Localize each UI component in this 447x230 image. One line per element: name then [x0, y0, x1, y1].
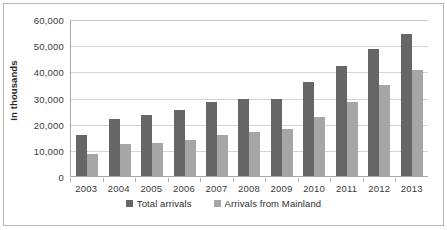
- x-axis-tick-label: 2004: [108, 183, 130, 194]
- x-axis-tick-label: 2010: [303, 183, 325, 194]
- x-axis-tick-2006: 2006: [168, 178, 201, 196]
- x-axis-tick-2011: 2011: [330, 178, 363, 196]
- x-axis-tick-2005: 2005: [135, 178, 168, 196]
- x-axis-tick-mark: [135, 178, 136, 182]
- x-axis-tick-mark: [298, 178, 299, 182]
- bar-total-arrivals-2005[interactable]: [141, 115, 152, 176]
- bar-total-arrivals-2013[interactable]: [401, 34, 412, 176]
- bar-arrivals-from-mainland-2007[interactable]: [217, 135, 228, 176]
- x-axis-tick-2009: 2009: [265, 178, 298, 196]
- x-axis-tick-label: 2013: [401, 183, 423, 194]
- x-axis-tick-mark: [395, 178, 396, 182]
- y-axis-tick-label: 20,000: [34, 119, 64, 130]
- legend-swatch-icon: [126, 200, 133, 207]
- bar-group-2013: [396, 20, 428, 176]
- x-axis-tick-mark: [70, 178, 71, 182]
- bar-group-2005: [136, 20, 168, 176]
- y-axis-tick-label: 40,000: [34, 67, 64, 78]
- bar-total-arrivals-2006[interactable]: [174, 110, 185, 176]
- bar-arrivals-from-mainland-2008[interactable]: [249, 132, 260, 176]
- bar-arrivals-from-mainland-2012[interactable]: [379, 85, 390, 176]
- y-axis-tick-label: 50,000: [34, 41, 64, 52]
- bar-group-2003: [71, 20, 103, 176]
- bar-series-layer: [71, 20, 428, 176]
- bar-total-arrivals-2011[interactable]: [336, 66, 347, 176]
- bar-total-arrivals-2010[interactable]: [303, 82, 314, 176]
- x-axis-tick-mark: [233, 178, 234, 182]
- x-axis-tick-2003: 2003: [70, 178, 103, 196]
- bar-arrivals-from-mainland-2009[interactable]: [282, 129, 293, 176]
- bar-group-2009: [266, 20, 298, 176]
- x-axis-tick-mark: [265, 178, 266, 182]
- x-axis-tick-2004: 2004: [103, 178, 136, 196]
- bar-arrivals-from-mainland-2003[interactable]: [87, 154, 98, 176]
- bar-arrivals-from-mainland-2011[interactable]: [347, 102, 358, 176]
- bar-group-2010: [298, 20, 330, 176]
- bar-chart-figure: In thousands 010,00020,00030,00040,00050…: [0, 0, 447, 230]
- x-axis-tick-2007: 2007: [200, 178, 233, 196]
- legend-item-total[interactable]: Total arrivals: [126, 198, 192, 209]
- x-axis-tick-label: 2008: [238, 183, 260, 194]
- x-axis-tick-mark: [330, 178, 331, 182]
- x-axis-tick-2013: 2013: [395, 178, 428, 196]
- bar-arrivals-from-mainland-2006[interactable]: [185, 140, 196, 176]
- legend-item-mainland[interactable]: Arrivals from Mainland: [214, 198, 322, 209]
- plot-area: [70, 20, 428, 177]
- x-axis-tick-label: 2007: [205, 183, 227, 194]
- x-axis-tick-mark: [168, 178, 169, 182]
- y-axis-title-text: In thousands: [8, 60, 19, 120]
- y-axis-tick-label: 30,000: [34, 93, 64, 104]
- bar-total-arrivals-2012[interactable]: [368, 49, 379, 176]
- bar-group-2011: [331, 20, 363, 176]
- x-axis-tick-2012: 2012: [363, 178, 396, 196]
- bar-group-2007: [201, 20, 233, 176]
- bar-group-2004: [103, 20, 135, 176]
- x-axis-tick-label: 2003: [75, 183, 97, 194]
- bar-total-arrivals-2003[interactable]: [76, 135, 87, 176]
- chart-legend: Total arrivalsArrivals from Mainland: [0, 198, 447, 209]
- legend-swatch-icon: [214, 200, 221, 207]
- bar-arrivals-from-mainland-2004[interactable]: [120, 144, 131, 176]
- x-axis-tick-mark: [103, 178, 104, 182]
- bar-group-2006: [168, 20, 200, 176]
- bar-total-arrivals-2004[interactable]: [109, 119, 120, 176]
- x-axis-tick-mark: [363, 178, 364, 182]
- x-axis-tick-label: 2012: [368, 183, 390, 194]
- bar-arrivals-from-mainland-2013[interactable]: [412, 70, 423, 176]
- y-axis-tick-labels: 010,00020,00030,00040,00050,00060,000: [24, 0, 68, 190]
- x-axis-tick-label: 2011: [336, 183, 357, 194]
- bar-group-2008: [233, 20, 265, 176]
- x-axis-tick-2010: 2010: [298, 178, 331, 196]
- y-axis-tick-label: 0: [59, 172, 64, 183]
- x-axis-tick-label: 2005: [140, 183, 162, 194]
- x-axis-tick-2008: 2008: [233, 178, 266, 196]
- legend-item-label: Arrivals from Mainland: [225, 198, 322, 209]
- legend-item-label: Total arrivals: [137, 198, 192, 209]
- y-axis-tick-label: 10,000: [34, 145, 64, 156]
- bar-total-arrivals-2007[interactable]: [206, 102, 217, 176]
- bar-total-arrivals-2008[interactable]: [238, 99, 249, 176]
- bar-arrivals-from-mainland-2010[interactable]: [314, 117, 325, 176]
- y-axis-title: In thousands: [0, 0, 26, 180]
- x-axis-tick-mark: [200, 178, 201, 182]
- bar-group-2012: [363, 20, 395, 176]
- bar-arrivals-from-mainland-2005[interactable]: [152, 143, 163, 176]
- x-axis-tick-labels: 2003200420052006200720082009201020112012…: [70, 178, 428, 196]
- x-axis-tick-label: 2009: [271, 183, 293, 194]
- x-axis-tick-label: 2006: [173, 183, 195, 194]
- bar-total-arrivals-2009[interactable]: [271, 99, 282, 176]
- y-axis-tick-label: 60,000: [34, 15, 64, 26]
